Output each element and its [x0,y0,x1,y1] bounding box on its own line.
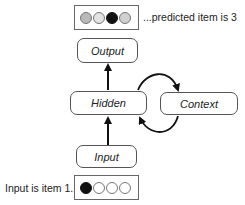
input-unit-3 [106,182,118,194]
output-unit-1 [80,12,92,24]
input-node: Input [76,145,137,168]
input-unit-1 [80,182,92,194]
output-unit-4 [119,12,131,24]
output-unit-3 [106,12,118,24]
input-unit-2 [93,182,105,194]
output-prediction-label: ...predicted item is 3 [143,11,237,23]
arrow-context-to-hidden [140,116,178,132]
output-node: Output [77,38,138,63]
input-item-label: Input is item 1... [5,182,79,194]
hidden-node: Hidden [70,91,147,115]
output-vector-box [74,5,139,30]
arrow-hidden-to-context [138,74,178,90]
input-vector-box [74,175,139,200]
context-node: Context [160,92,238,115]
output-unit-2 [93,12,105,24]
input-unit-4 [119,182,131,194]
